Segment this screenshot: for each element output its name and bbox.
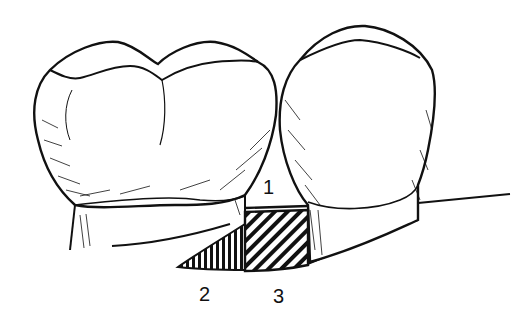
label-3: 3 [273, 286, 284, 306]
region-2-hatched [178, 224, 245, 270]
dental-diagram: 1 2 3 [0, 0, 528, 319]
molar-tooth [34, 42, 276, 250]
bone-regions [178, 206, 308, 271]
diagram-canvas [0, 0, 528, 319]
label-2: 2 [199, 284, 210, 304]
region-3-hatched [245, 210, 308, 271]
label-1: 1 [263, 177, 274, 197]
region-1-boundary [245, 206, 308, 208]
